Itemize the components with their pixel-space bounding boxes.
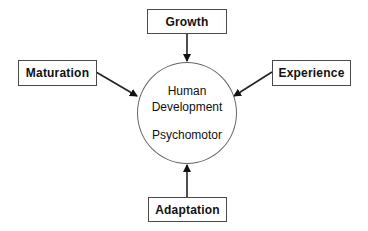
node-experience-label: Experience [278,66,344,80]
center-label-line2: Development [152,99,223,115]
node-adaptation: Adaptation [148,197,227,222]
node-growth: Growth [147,9,227,34]
node-growth-label: Growth [165,15,208,29]
center-node-human-development: Human Development Psychomotor [137,62,237,164]
diagram-canvas: Growth Maturation Experience Adaptation … [0,0,368,231]
node-adaptation-label: Adaptation [155,203,220,217]
center-label-line3: Psychomotor [152,127,222,143]
node-maturation: Maturation [18,60,97,86]
arrow-maturation-to-center [96,72,137,96]
center-label-line1: Human [168,83,207,99]
node-maturation-label: Maturation [26,66,89,80]
arrow-experience-to-center [234,72,272,96]
node-experience: Experience [272,60,351,86]
